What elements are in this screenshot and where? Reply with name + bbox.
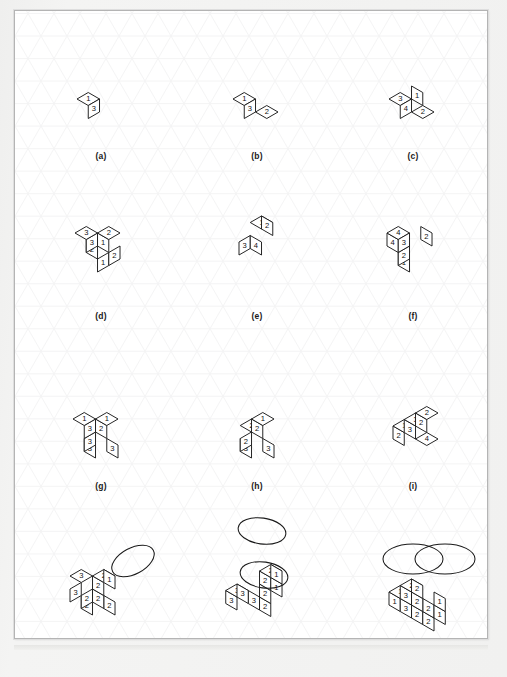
caption-d: (d): [81, 311, 121, 321]
caption-l: (l): [393, 637, 433, 639]
tile-label: 2: [263, 589, 267, 598]
panel-a: 13: [77, 93, 100, 119]
tile-label: 3: [229, 596, 233, 605]
tile-label: 4: [254, 241, 258, 250]
tile-label: 2: [425, 408, 429, 417]
panel-g: 3333121: [73, 413, 118, 459]
tile-label: 3: [84, 228, 88, 237]
tile-label: 2: [265, 221, 269, 230]
tile-label: 2: [99, 424, 103, 433]
tile-label: 2: [263, 602, 267, 611]
tile-label: 1: [274, 570, 278, 579]
tile-label: 3: [241, 589, 245, 598]
tile-label: 1: [393, 597, 397, 606]
tile-label: 1: [438, 597, 442, 606]
tile-label: 3: [402, 238, 406, 247]
tile-label: 1: [107, 575, 111, 584]
tile-label: 2: [421, 107, 425, 116]
paper-bottom-shadow: [14, 645, 488, 650]
tile-label: 2: [96, 594, 100, 603]
tile-label: 2: [426, 604, 430, 613]
tile-label: 1: [261, 414, 265, 423]
tile-label: 3: [88, 424, 92, 433]
tile-label: 3: [248, 104, 252, 113]
panel-k: 3333222121: [226, 515, 290, 617]
tile-label: 2: [107, 228, 111, 237]
tile-label: 1: [86, 94, 90, 103]
tile-label: 1: [82, 414, 86, 423]
caption-e: (e): [237, 311, 277, 321]
tile-label: 2: [112, 251, 116, 260]
loop-ellipse: [415, 544, 475, 574]
tile-label: 2: [426, 617, 430, 626]
tile-label: 3: [92, 104, 96, 113]
tile-label: 2: [419, 418, 423, 427]
panel-d: 1233212: [75, 227, 120, 273]
caption-a: (a): [81, 151, 121, 161]
tile-label: 3: [408, 425, 412, 434]
tile-label: 3: [74, 588, 78, 597]
panel-l: 121323222121: [383, 544, 475, 631]
loop-ellipse: [383, 544, 443, 574]
tile-label: 3: [79, 571, 83, 580]
tiling-figures-layer: 1313234121233212341212443233331213232212…: [15, 11, 487, 638]
tile-label: 2: [244, 437, 248, 446]
tile-label: 3: [404, 591, 408, 600]
tile-label: 3: [90, 238, 94, 247]
caption-b: (b): [237, 151, 277, 161]
panel-f: 124432: [387, 227, 432, 273]
loop-ellipse: [236, 515, 287, 547]
caption-c: (c): [393, 151, 433, 161]
tile-label: 3: [243, 241, 247, 250]
tile-label: 2: [402, 251, 406, 260]
caption-g: (g): [81, 481, 121, 491]
tile-label: 1: [105, 414, 109, 423]
tile-label: 2: [424, 232, 428, 241]
tile-label: 4: [396, 228, 400, 237]
tile-label: 1: [242, 94, 246, 103]
tile-label: 4: [425, 434, 429, 443]
panel-h: 323221: [240, 413, 274, 459]
tile-label: 4: [391, 238, 395, 247]
panel-i: 2143322: [393, 407, 438, 446]
tile-label: 1: [101, 238, 105, 247]
panel-b: 132: [233, 93, 278, 119]
tile-label: 3: [252, 596, 256, 605]
tile-label: 3: [88, 437, 92, 446]
caption-j: (j): [81, 637, 121, 639]
tile-label: 2: [255, 424, 259, 433]
caption-k: (k): [237, 637, 277, 639]
tile-label: 2: [265, 107, 269, 116]
tile-label: 2: [263, 576, 267, 585]
panel-j: 222323221: [70, 539, 159, 615]
tile-label: 2: [96, 581, 100, 590]
tile-label: 3: [404, 604, 408, 613]
tile-label: 2: [85, 594, 89, 603]
caption-h: (h): [237, 481, 277, 491]
caption-i: (i): [393, 481, 433, 491]
scanned-page: 1313234121233212341212443233331213232212…: [0, 0, 507, 677]
tile-label: 2: [415, 610, 419, 619]
tile-label: 1: [438, 610, 442, 619]
tile-label: 3: [398, 94, 402, 103]
panel-c: 3412: [389, 86, 434, 119]
panel-e: 3412: [239, 216, 273, 255]
tile-label: 2: [415, 597, 419, 606]
tile-label: 4: [404, 104, 408, 113]
tile-label: 3: [110, 444, 114, 453]
caption-f: (f): [393, 311, 433, 321]
figure-paper: 1313234121233212341212443233331213232212…: [14, 10, 488, 639]
tile-label: 1: [415, 91, 419, 100]
tile-label: 2: [107, 601, 111, 610]
tile-label: 3: [266, 444, 270, 453]
tile-label: 1: [101, 258, 105, 267]
tile-label: 2: [397, 431, 401, 440]
tile-label: 2: [415, 584, 419, 593]
